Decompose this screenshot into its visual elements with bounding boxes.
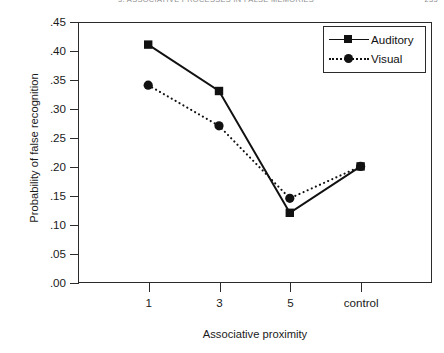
y-axis-tick-label: .10 [0,219,72,231]
legend-item-visual: Visual [329,49,420,68]
legend-key-auditory [329,33,369,47]
data-point-visual-5 [285,194,294,203]
y-axis-tick-label: .35 [0,74,72,86]
legend-label-visual: Visual [371,52,402,65]
square-marker-icon [344,35,352,43]
chart-legend: Auditory Visual [323,26,426,73]
y-axis-tick-label: .25 [0,132,72,144]
data-point-auditory-1 [144,40,152,48]
y-axis-tick-label: .20 [0,161,72,173]
legend-key-visual [329,52,369,66]
line-chart-figure: Probability of false recognition Associa… [0,0,444,353]
x-axis-tick-label: control [316,296,406,309]
data-point-auditory-5 [286,209,294,217]
y-axis-tick-label: .45 [0,16,72,28]
y-axis-tick-label: .00 [0,277,72,289]
series-line-visual [148,85,360,198]
data-point-visual-control [356,162,365,171]
data-point-visual-1 [144,81,153,90]
y-axis-tick-label: .05 [0,248,72,260]
y-axis-tick-label: .30 [0,103,72,115]
x-axis-title: Associative proximity [78,328,432,340]
y-axis-tick-label: .15 [0,190,72,202]
x-axis-tick [149,283,150,292]
data-point-visual-3 [214,121,223,130]
legend-item-auditory: Auditory [329,30,420,49]
circle-marker-icon [344,54,353,63]
x-axis-tick [220,283,221,292]
legend-label-auditory: Auditory [371,33,414,46]
x-axis-tick [290,283,291,292]
data-point-auditory-3 [215,87,223,95]
y-axis-tick-label: .40 [0,45,72,57]
x-axis-tick [361,283,362,292]
